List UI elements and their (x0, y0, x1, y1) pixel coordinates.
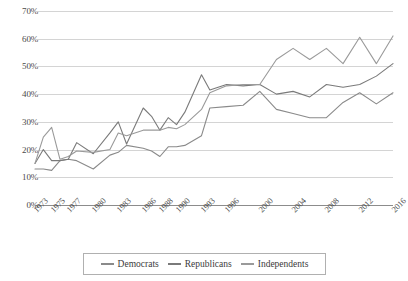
legend-entry-independents[interactable]: Independents (241, 259, 309, 269)
y-tick-label: 30% (8, 118, 38, 127)
legend-entry-republicans[interactable]: Republicans (168, 259, 232, 269)
legend-label: Republicans (185, 259, 232, 269)
legend-label: Democrats (118, 259, 159, 269)
chart-legend: DemocratsRepublicansIndependents (83, 253, 326, 275)
y-tick-label: 20% (8, 146, 38, 155)
legend-entry-democrats[interactable]: Democrats (101, 259, 159, 269)
legend-swatch-icon (241, 263, 254, 264)
legend-swatch-icon (101, 263, 114, 264)
series-line-democrats (35, 91, 393, 170)
y-tick-label: 60% (8, 35, 38, 44)
y-tick-label: 50% (8, 62, 38, 71)
legend-label: Independents (258, 259, 309, 269)
series-line-republicans (35, 64, 393, 164)
series-line-independents (35, 36, 393, 163)
y-tick-label: 10% (8, 173, 38, 182)
legend-swatch-icon (168, 263, 181, 264)
y-tick-label: 70% (8, 7, 38, 16)
plot-area (35, 11, 393, 205)
y-tick-label: 40% (8, 90, 38, 99)
series-lines (35, 11, 393, 205)
